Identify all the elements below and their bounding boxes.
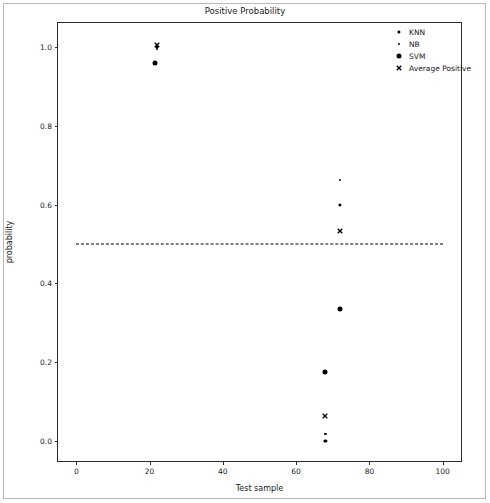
legend-item-nb[interactable]: NB: [389, 38, 485, 50]
x-axis-tick-label: 60: [291, 467, 301, 476]
dot-marker-icon: [389, 26, 409, 38]
data-point-nb: [324, 433, 326, 435]
y-axis-tick-label: 0.2: [40, 358, 52, 367]
data-point-svm: [153, 61, 158, 66]
legend: KNNNBSVMAverage Positive: [389, 26, 485, 74]
y-axis-tick-label: 0.4: [40, 279, 52, 288]
data-point-nb: [156, 48, 158, 50]
data-point-average-positive: [337, 228, 343, 234]
figure-canvas: Positive Probability 0204060801000.00.20…: [0, 0, 490, 503]
plot-axes: 0204060801000.00.20.40.60.81.0: [57, 22, 462, 462]
legend-item-average-positive[interactable]: Average Positive: [389, 62, 485, 74]
y-axis-tick: [55, 283, 59, 284]
dot-marker-icon: [389, 50, 409, 62]
data-point-knn: [339, 203, 342, 206]
y-axis-tick-label: 1.0: [40, 42, 52, 51]
y-axis-tick: [55, 362, 59, 363]
x-axis-label: Test sample: [57, 484, 462, 493]
data-point-svm: [338, 307, 343, 312]
legend-label: SVM: [409, 52, 425, 61]
x-axis-tick-label: 20: [145, 467, 155, 476]
x-axis-tick-label: 80: [365, 467, 375, 476]
y-axis-label: probability: [5, 221, 14, 264]
dot-marker-icon: [389, 38, 409, 50]
x-axis-tick-label: 100: [436, 467, 450, 476]
legend-label: KNN: [409, 28, 425, 37]
y-axis-tick: [55, 441, 59, 442]
legend-label: NB: [409, 40, 420, 49]
legend-item-knn[interactable]: KNN: [389, 26, 485, 38]
x-axis-tick: [296, 461, 297, 465]
legend-label: Average Positive: [409, 64, 471, 73]
x-axis-tick: [369, 461, 370, 465]
data-point-nb: [339, 179, 341, 181]
y-axis-tick-label: 0.0: [40, 437, 52, 446]
y-axis-tick-label: 0.6: [40, 200, 52, 209]
x-axis-tick: [443, 461, 444, 465]
x-axis-tick-label: 0: [74, 467, 79, 476]
page-title: Positive Probability: [0, 6, 490, 16]
y-axis-tick: [55, 205, 59, 206]
plot-area: [58, 23, 461, 461]
data-point-average-positive: [154, 42, 160, 48]
legend-item-svm[interactable]: SVM: [389, 50, 485, 62]
x-axis-tick-label: 40: [218, 467, 228, 476]
threshold-line: [76, 243, 442, 244]
data-point-svm: [323, 370, 328, 375]
y-axis-tick: [55, 126, 59, 127]
x-axis-tick: [150, 461, 151, 465]
data-point-knn: [324, 440, 327, 443]
y-axis-tick-label: 0.8: [40, 121, 52, 130]
x-axis-tick: [76, 461, 77, 465]
data-point-average-positive: [322, 413, 328, 419]
y-axis-tick: [55, 47, 59, 48]
x-axis-tick: [223, 461, 224, 465]
x-marker-icon: [389, 62, 409, 74]
